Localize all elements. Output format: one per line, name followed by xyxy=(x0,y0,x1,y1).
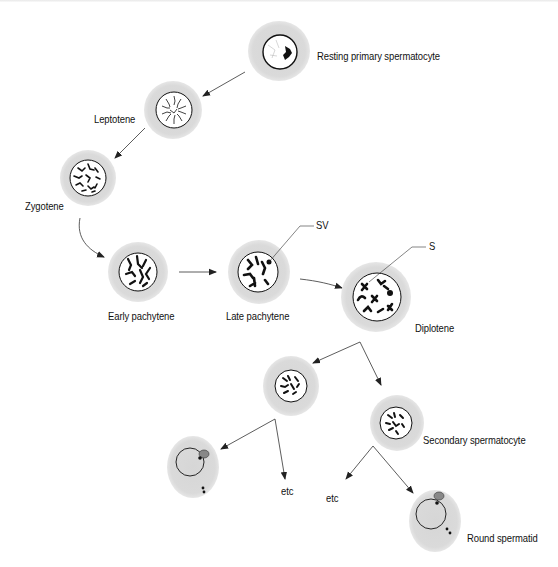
label-resting-primary-spermatocyte: Resting primary spermatocyte xyxy=(317,50,440,62)
label-early-pachytene: Early pachytene xyxy=(108,310,174,322)
label-etc-right: etc xyxy=(326,492,338,504)
arrow-zygotene-to-early-pachytene xyxy=(79,218,104,257)
cell-secondary-spermatocyte-left xyxy=(263,356,319,416)
arrow-secondary-right-to-etc xyxy=(346,446,373,479)
label-diplotene: Diplotene xyxy=(415,322,454,334)
label-late-pachytene: Late pachytene xyxy=(226,310,289,322)
annotation-sv: SV xyxy=(316,219,328,231)
label-leptotene: Leptotene xyxy=(94,113,135,125)
spermatogenesis-diagram xyxy=(0,0,558,567)
label-secondary-spermatocyte: Secondary spermatocyte xyxy=(423,434,526,446)
arrow-late-pachytene-to-diplotene xyxy=(300,279,342,288)
annotation-s: S xyxy=(429,240,435,252)
arrow-resting-to-leptotene xyxy=(203,72,245,96)
cell-early-pachytene xyxy=(108,242,168,302)
arrow-diplotene-to-secondary-left xyxy=(313,342,360,363)
label-round-spermatid: Round spermatid xyxy=(467,532,538,544)
cell-zygotene xyxy=(60,150,116,206)
cell-secondary-spermatocyte-right xyxy=(370,395,424,451)
arrow-secondary-left-to-spermatid xyxy=(221,419,275,449)
cell-leptotene xyxy=(144,81,202,139)
cell-round-spermatid xyxy=(409,490,461,552)
cell-spermatid-left xyxy=(167,436,219,498)
arrow-diplotene-to-secondary-right xyxy=(360,342,381,385)
arrow-leptotene-to-zygotene xyxy=(115,128,145,158)
arrow-secondary-left-to-etc xyxy=(275,419,285,479)
cell-diplotene xyxy=(341,247,426,332)
arrow-secondary-right-to-round-spermatid xyxy=(373,446,413,493)
label-zygotene: Zygotene xyxy=(25,200,64,212)
label-etc-left: etc xyxy=(281,485,293,497)
cell-late-pachytene xyxy=(228,226,314,304)
cell-resting-primary-spermatocyte xyxy=(248,21,310,81)
